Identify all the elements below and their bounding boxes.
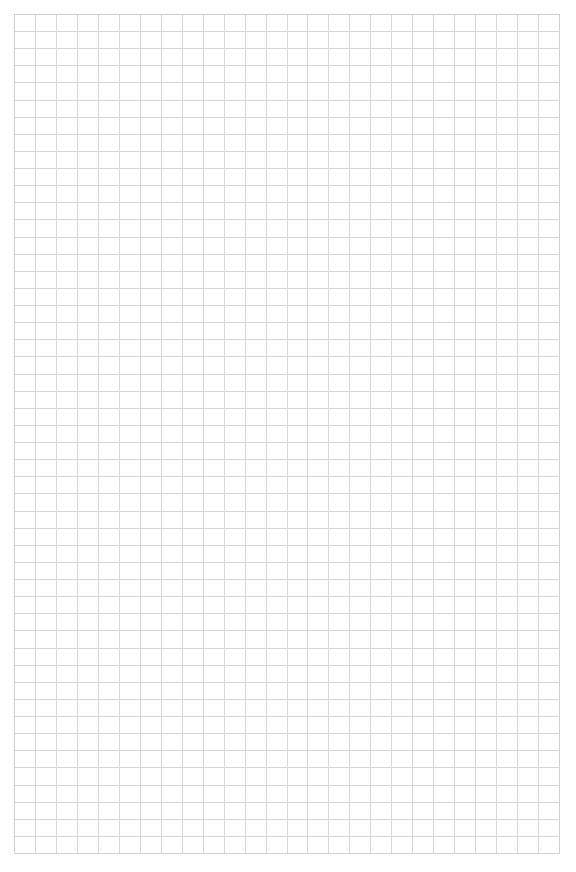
vertical-rules [36, 14, 539, 853]
horizontal-rules [14, 32, 559, 837]
grid-lines [0, 0, 576, 872]
grid-paper-page [0, 0, 576, 872]
